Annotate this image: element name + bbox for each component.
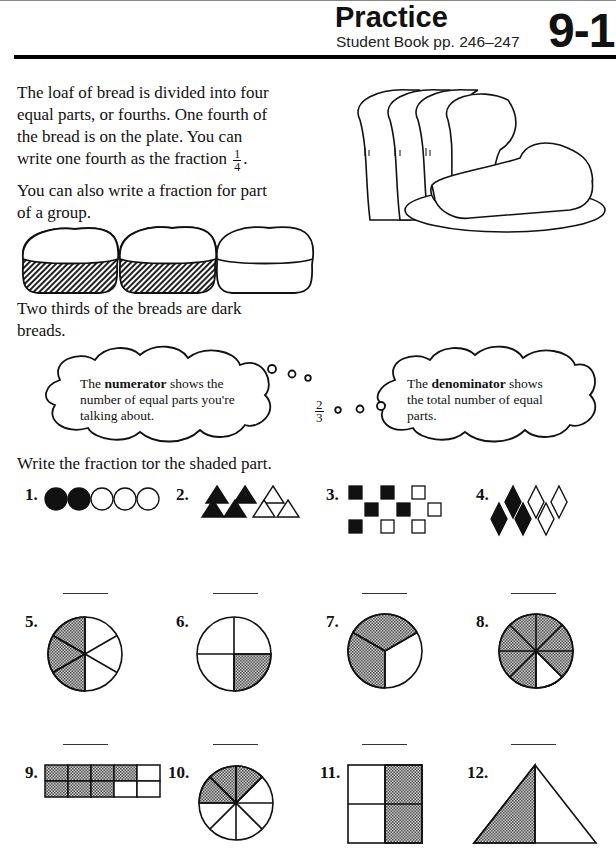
answer-line-2[interactable] bbox=[213, 593, 258, 594]
cloud-line: the total number of equal bbox=[407, 392, 543, 408]
problem-11-figure bbox=[347, 764, 423, 844]
problem-8-figure bbox=[497, 612, 575, 690]
summary-line: Two thirds of the breads are dark bbox=[17, 298, 347, 320]
cloud-line: number of equal parts you're bbox=[80, 392, 235, 408]
answer-line-4[interactable] bbox=[511, 593, 556, 594]
denominator-cloud-text: The denominator shows the total number o… bbox=[407, 376, 543, 424]
intro-line: write one fourth as the fraction 14. bbox=[17, 148, 347, 173]
numerator-cloud-text: The numerator shows the number of equal … bbox=[80, 376, 235, 424]
answer-line-7[interactable] bbox=[362, 744, 407, 745]
problem-7-figure bbox=[346, 612, 424, 690]
problem-9-label: 9. bbox=[25, 763, 38, 783]
problem-4-label: 4. bbox=[476, 485, 489, 505]
problem-7-label: 7. bbox=[326, 612, 339, 632]
answer-line-1[interactable] bbox=[63, 593, 108, 594]
group-paragraph: You can also write a fraction for part o… bbox=[17, 180, 347, 224]
problem-3-figure bbox=[348, 485, 438, 535]
problem-1-label: 1. bbox=[25, 485, 38, 505]
bread-loaf-illustration bbox=[340, 80, 610, 240]
lesson-number: 9-1 bbox=[548, 6, 614, 56]
answer-line-6[interactable] bbox=[213, 744, 258, 745]
group-line: of a group. bbox=[17, 202, 347, 224]
cloud-line: The denominator shows bbox=[407, 376, 543, 392]
problem-1-figure bbox=[44, 487, 159, 513]
answer-line-3[interactable] bbox=[362, 593, 407, 594]
cloud-rest: shows the bbox=[167, 376, 224, 391]
problem-3-label: 3. bbox=[326, 485, 339, 505]
instructions: Write the fraction tor the shaded part. bbox=[17, 453, 272, 475]
term-denominator: denominator bbox=[431, 376, 505, 391]
center-fraction: 23 bbox=[315, 399, 324, 424]
problem-5-figure bbox=[46, 615, 124, 693]
problem-12-figure bbox=[473, 764, 599, 844]
problem-5-label: 5. bbox=[25, 612, 38, 632]
denominator: 4 bbox=[233, 161, 241, 173]
group-line: You can also write a fraction for part bbox=[17, 180, 347, 202]
cloud-line: The numerator shows the bbox=[80, 376, 235, 392]
denominator: 3 bbox=[315, 412, 324, 424]
cloud-line: talking about. bbox=[80, 408, 235, 424]
cloud-rest: shows bbox=[506, 376, 543, 391]
intro-paragraph: The loaf of bread is divided into four e… bbox=[17, 82, 347, 173]
problem-10-label: 10. bbox=[168, 763, 189, 783]
bread-plain bbox=[217, 227, 313, 293]
answer-line-8[interactable] bbox=[511, 744, 556, 745]
problem-6-label: 6. bbox=[176, 612, 189, 632]
intro-line: The loaf of bread is divided into four bbox=[17, 82, 347, 104]
summary-line: breads. bbox=[17, 320, 347, 342]
page-title: Practice bbox=[335, 1, 448, 33]
problem-8-label: 8. bbox=[476, 612, 489, 632]
cloud-prefix: The bbox=[80, 376, 104, 391]
term-numerator: numerator bbox=[104, 376, 166, 391]
problem-2-figure bbox=[202, 484, 298, 520]
answer-line-5[interactable] bbox=[63, 744, 108, 745]
cloud-prefix: The bbox=[407, 376, 431, 391]
summary-paragraph: Two thirds of the breads are dark breads… bbox=[17, 298, 347, 342]
problem-9-figure bbox=[45, 765, 161, 799]
group-bread-illustration bbox=[20, 225, 310, 295]
problem-4-figure bbox=[491, 485, 571, 535]
cloud-line: parts. bbox=[407, 408, 543, 424]
intro-line: equal parts, or fourths. One fourth of bbox=[17, 104, 347, 126]
problem-11-label: 11. bbox=[320, 763, 340, 783]
header-rule bbox=[14, 55, 616, 59]
page-subtitle: Student Book pp. 246–247 bbox=[336, 33, 520, 51]
problem-6-figure bbox=[195, 615, 273, 693]
fraction-one-fourth: 14 bbox=[233, 148, 241, 173]
problem-10-figure bbox=[197, 764, 275, 842]
top-border bbox=[0, 0, 616, 1]
intro-line: the bread is on the plate. You can bbox=[17, 126, 347, 148]
intro-line-text: write one fourth as the fraction bbox=[17, 149, 227, 168]
problem-2-label: 2. bbox=[176, 485, 189, 505]
